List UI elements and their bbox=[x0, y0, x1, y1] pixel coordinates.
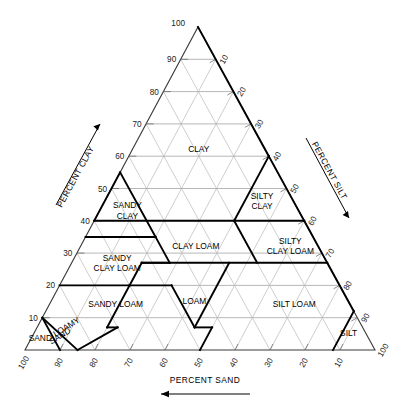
tick-label-sand-80: 80 bbox=[88, 356, 101, 369]
tick-label-apex-100: 100 bbox=[171, 19, 185, 28]
axis-title-clay: PERCENT CLAY bbox=[55, 124, 100, 209]
tick-label-silt-90: 90 bbox=[359, 311, 372, 324]
tick-label-clay-30: 30 bbox=[63, 249, 73, 258]
soil-texture-triangle-figure: 1001020304050607080901020304050607080901… bbox=[0, 0, 410, 416]
region-label-sand: SAND bbox=[29, 333, 52, 343]
tick-label-sand-100: 100 bbox=[17, 354, 32, 371]
tick-label-clay-70: 70 bbox=[132, 120, 142, 129]
axis-titles: PERCENT CLAYPERCENT SILTPERCENT SAND bbox=[55, 124, 350, 397]
tick-label-silt-80: 80 bbox=[342, 279, 355, 292]
svg-text:SILTY: SILTY bbox=[279, 236, 302, 246]
region-label-silt-loam: SILT LOAM bbox=[273, 299, 316, 309]
svg-text:SANDY: SANDY bbox=[113, 200, 142, 210]
tick-label-sand-70: 70 bbox=[123, 356, 136, 369]
svg-text:SILT LOAM: SILT LOAM bbox=[273, 299, 316, 309]
tick-label-clay-10: 10 bbox=[29, 314, 39, 323]
tick-label-silt-60: 60 bbox=[306, 214, 319, 227]
ternary-diagram: 1001020304050607080901020304050607080901… bbox=[0, 0, 410, 416]
svg-text:CLAY: CLAY bbox=[188, 144, 210, 154]
tick-label-sand-10: 10 bbox=[333, 356, 346, 369]
svg-text:CLAY: CLAY bbox=[251, 201, 273, 211]
svg-text:CLAY LOAM: CLAY LOAM bbox=[94, 263, 141, 273]
tick-label-sand-60: 60 bbox=[158, 356, 171, 369]
tick-label-silt-50: 50 bbox=[289, 182, 302, 195]
tick-label-silt-30: 30 bbox=[253, 118, 266, 131]
tick-label-clay-20: 20 bbox=[46, 281, 56, 290]
tick-label-silt-10: 10 bbox=[218, 53, 231, 66]
tick-label-silt-100: 100 bbox=[376, 342, 391, 359]
tick-label-clay-40: 40 bbox=[81, 217, 91, 226]
svg-text:CLAY LOAM: CLAY LOAM bbox=[267, 246, 314, 256]
tick-label-sand-30: 30 bbox=[263, 356, 276, 369]
svg-text:SILT: SILT bbox=[340, 328, 357, 338]
tick-label-sand-40: 40 bbox=[228, 356, 241, 369]
tick-label-silt-70: 70 bbox=[324, 247, 337, 260]
region-label-sandy-loam: SANDY LOAM bbox=[88, 299, 143, 309]
region-label-sandy-clay: SANDYCLAY bbox=[113, 200, 142, 220]
axis-title-silt: PERCENT SILT bbox=[306, 138, 349, 218]
svg-text:CLAY LOAM: CLAY LOAM bbox=[172, 241, 219, 251]
tick-label-clay-90: 90 bbox=[167, 55, 177, 64]
region-label-silty-clay-loam: SILTYCLAY LOAM bbox=[267, 236, 314, 256]
axis-title-sand: PERCENT SAND bbox=[161, 375, 250, 397]
region-label-clay: CLAY bbox=[188, 144, 210, 154]
tick-label-sand-20: 20 bbox=[298, 356, 311, 369]
region-label-sandy-clay-loam: SANDYCLAY LOAM bbox=[94, 253, 141, 273]
tick-label-sand-50: 50 bbox=[193, 356, 206, 369]
svg-text:SAND: SAND bbox=[29, 333, 52, 343]
tick-label-sand-90: 90 bbox=[53, 356, 66, 369]
svg-text:SILTY: SILTY bbox=[251, 191, 274, 201]
tick-label-clay-80: 80 bbox=[150, 88, 160, 97]
svg-text:SANDY LOAM: SANDY LOAM bbox=[88, 299, 143, 309]
svg-text:PERCENT SILT: PERCENT SILT bbox=[310, 140, 349, 201]
tick-label-clay-50: 50 bbox=[98, 185, 108, 194]
svg-text:LOAM: LOAM bbox=[183, 296, 207, 306]
region-label-clay-loam: CLAY LOAM bbox=[172, 241, 219, 251]
region-label-loam: LOAM bbox=[183, 296, 207, 306]
tick-label-silt-40: 40 bbox=[271, 150, 284, 163]
svg-text:PERCENT SAND: PERCENT SAND bbox=[170, 375, 240, 385]
svg-text:SANDY: SANDY bbox=[103, 253, 132, 263]
region-label-silt: SILT bbox=[340, 328, 357, 338]
svg-text:CLAY: CLAY bbox=[117, 211, 139, 221]
svg-text:PERCENT CLAY: PERCENT CLAY bbox=[55, 144, 96, 209]
region-label-silty-clay: SILTYCLAY bbox=[251, 191, 274, 211]
tick-label-silt-20: 20 bbox=[236, 85, 249, 98]
tick-label-clay-60: 60 bbox=[115, 152, 125, 161]
